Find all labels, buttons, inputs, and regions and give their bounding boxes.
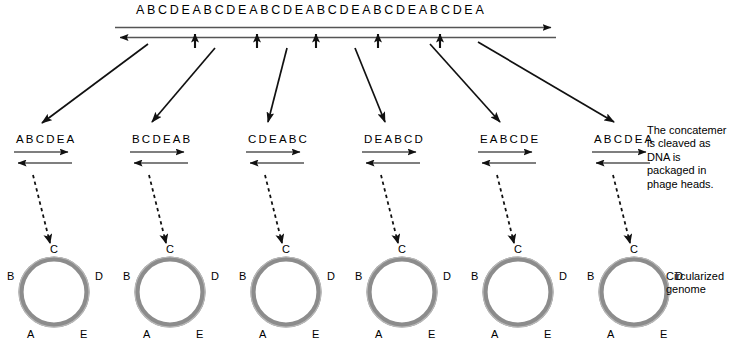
genome-1-label-lower-left: A — [27, 328, 34, 340]
genome-6-label-lower-right: E — [660, 328, 667, 340]
genome-3-label-upper-left: B — [239, 270, 246, 282]
genome-5-label-top: C — [514, 243, 522, 255]
genome-5-label-upper-left: B — [471, 270, 478, 282]
genome-4-label-lower-right: E — [428, 328, 435, 340]
fragment-sequence-3: CDEABC — [248, 133, 309, 145]
genome-1-label-upper-left: B — [7, 270, 14, 282]
genome-3-label-lower-left: A — [259, 328, 266, 340]
genome-4-label-upper-right: D — [443, 270, 451, 282]
cleavage-site-arrows — [195, 34, 440, 48]
fragment-sequence-6: ABCDEA — [594, 133, 655, 145]
genome-2-label-lower-left: A — [143, 328, 150, 340]
concatemer-arrows — [115, 28, 556, 38]
diagram-vector-layer — [0, 0, 747, 352]
genome-5-label-upper-right: D — [559, 270, 567, 282]
genome-6-label-upper-left: B — [587, 270, 594, 282]
genome-5-label-lower-left: A — [491, 328, 498, 340]
genome-1-label-top: C — [50, 243, 58, 255]
genome-2-label-lower-right: E — [196, 328, 203, 340]
genome-5-label-lower-right: E — [544, 328, 551, 340]
fragment-sequence-1: ABCDEA — [16, 133, 77, 145]
genome-4-label-upper-left: B — [355, 270, 362, 282]
genome-3-label-top: C — [282, 243, 290, 255]
circular-genome-rings — [19, 257, 669, 327]
fragment-sequence-4: DEABCD — [364, 133, 425, 145]
cleavage-caption: The concatemer is cleaved as DNA is pack… — [647, 124, 747, 191]
genome-6-label-top: C — [630, 243, 638, 255]
genome-1-label-lower-right: E — [80, 328, 87, 340]
fragment-sequence-2: BCDEAB — [132, 133, 193, 145]
fragment-sequence-5: EABCDE — [480, 133, 541, 145]
fragment-arrow-pairs — [14, 152, 650, 163]
genome-3-label-lower-right: E — [312, 328, 319, 340]
genome-2-label-top: C — [166, 243, 174, 255]
figure-canvas: ABCDEABCDEABCDEABCDEABCDEABCDEA ABCDEA B… — [0, 0, 747, 352]
genome-3-label-upper-right: D — [327, 270, 335, 282]
concatemer-sequence: ABCDEABCDEABCDEABCDEABCDEABCDEA — [136, 3, 486, 17]
genome-4-label-lower-left: A — [375, 328, 382, 340]
genome-6-label-lower-left: A — [607, 328, 614, 340]
genome-2-label-upper-right: D — [211, 270, 219, 282]
fragment-to-genome-dashed-arrows — [33, 175, 630, 243]
genome-4-label-top: C — [398, 243, 406, 255]
genome-1-label-upper-right: D — [95, 270, 103, 282]
circularized-genome-caption: Circularized genome — [666, 270, 746, 297]
genome-2-label-upper-left: B — [123, 270, 130, 282]
cleavage-to-fragment-arrows — [42, 42, 614, 123]
